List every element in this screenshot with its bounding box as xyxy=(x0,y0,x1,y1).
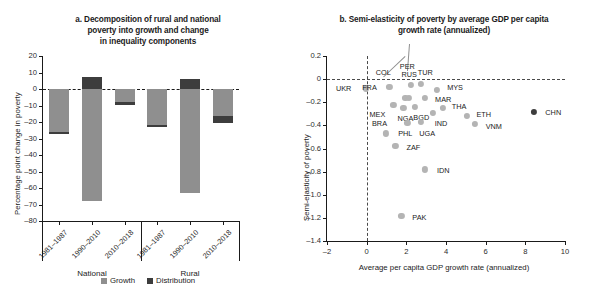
panel-b-y-tick-label: –0.8 xyxy=(297,167,321,176)
panel-a-group-separator xyxy=(141,221,142,261)
panel-a-title-line-2: poverty into growth and change xyxy=(0,25,296,36)
panel-a-category-label: 2010–2018 xyxy=(102,228,135,261)
panel-a-y-tickmark xyxy=(39,122,43,123)
panel-b-point-idn[interactable] xyxy=(422,166,428,172)
panel-b-x-tick-label: 4 xyxy=(434,247,458,256)
panel-b-point-bra[interactable] xyxy=(382,130,388,136)
panel-b-title-line-1: b. Semi-elasticity of poverty by average… xyxy=(296,14,592,25)
panel-b-y-tickmark xyxy=(323,125,327,126)
panel-b-point-vnm[interactable] xyxy=(472,121,478,127)
panel-a-bar-segment-distribution xyxy=(147,125,167,127)
panel-b-point-eth[interactable] xyxy=(464,113,470,119)
panel-a-y-tickmark xyxy=(39,73,43,74)
panel-b-point-label-vnm: VNM xyxy=(486,122,502,131)
panel-b-y-tickmark xyxy=(323,218,327,219)
panel-b-y-tick-label: –0.2 xyxy=(297,97,321,106)
panel-b-point-mys[interactable] xyxy=(434,86,440,92)
panel-a-x-tickmark xyxy=(92,221,93,225)
panel-b-point-label-chn: CHN xyxy=(545,107,561,116)
panel-b-y-tickmark xyxy=(323,79,327,80)
panel-a-y-tick-label: –50 xyxy=(11,167,37,176)
panel-b-point-rus[interactable] xyxy=(408,82,414,88)
panel-a-y-tick-label: –80 xyxy=(11,216,37,225)
panel-a-bar-segment-distribution xyxy=(82,77,102,89)
panel-b-x-tick-label: –2 xyxy=(315,247,339,256)
panel-a-category-label: 1981–1987 xyxy=(134,228,167,261)
panel-b-point-chn[interactable] xyxy=(531,108,537,114)
panel-a-title: a. Decomposition of rural and national p… xyxy=(0,14,296,47)
panel-a-bar-segment-distribution xyxy=(180,79,200,89)
panel-a-legend-item-growth[interactable]: Growth xyxy=(101,276,135,285)
panel-b-y-tickmark xyxy=(323,149,327,150)
panel-a-category-label: 1990–2010 xyxy=(167,228,200,261)
panel-b-point-per[interactable] xyxy=(406,95,412,101)
panel-a-bar-segment-growth xyxy=(49,89,69,132)
panel-a-plot-area xyxy=(43,56,239,221)
panel-a-category-label: 2010–2018 xyxy=(200,228,233,261)
panel-b-point-label-mex: MEX xyxy=(370,109,386,118)
panel-b-x-tick-label: 10 xyxy=(553,247,577,256)
panel-a-y-tickmark xyxy=(39,205,43,206)
panel-a-bar-segment-distribution xyxy=(49,132,69,134)
panel-a-legend-swatch-growth xyxy=(101,278,107,284)
panel-a-y-tickmark xyxy=(39,139,43,140)
panel-b-point-tha[interactable] xyxy=(440,105,446,111)
panel-b-x-tickmark xyxy=(406,241,407,245)
panel-b-point-bgd[interactable] xyxy=(412,104,418,110)
panel-a-bar-segment-growth xyxy=(147,89,167,125)
panel-a-bar-3 xyxy=(115,56,135,221)
panel-a-y-tickmark xyxy=(39,106,43,107)
panel-a-legend-label: Growth xyxy=(110,276,135,285)
panel-b-x-tickmark xyxy=(525,241,526,245)
panel-b-x-axis-title: Average per capita GDP growth rate (annu… xyxy=(296,263,592,272)
panel-b-point-label-ind: IND xyxy=(435,118,448,127)
panel-b-point-ind[interactable] xyxy=(430,110,436,116)
panel-b-point-label-ukr: UKR xyxy=(336,84,351,93)
panel-b-point-mar[interactable] xyxy=(422,95,428,101)
panel-a-x-tickmark xyxy=(223,221,224,225)
panel-b-y-tickmark xyxy=(323,172,327,173)
panel-b-y-tick-label: –0.4 xyxy=(297,120,321,129)
panel-a-x-tickmark xyxy=(59,221,60,225)
panel-b-y-tickmark xyxy=(323,56,327,57)
panel-b-x-tick-label: 8 xyxy=(513,247,537,256)
panel-a-bar-segment-growth xyxy=(82,89,102,201)
panel-b-point-uga[interactable] xyxy=(418,119,424,125)
panel-a-bar-segment-growth xyxy=(115,89,135,102)
panel-b-title: b. Semi-elasticity of poverty by average… xyxy=(296,14,592,36)
panel-a-zero-reference-line xyxy=(43,89,239,90)
panel-b-point-mex[interactable] xyxy=(390,101,396,107)
panel-b-point-phl[interactable] xyxy=(404,120,410,126)
panel-a-x-tickmark xyxy=(190,221,191,225)
panel-a-x-tickmark xyxy=(157,221,158,225)
panel-a-axis-right-edge xyxy=(239,221,240,261)
panel-b-x-tickmark xyxy=(327,241,328,245)
panel-b-point-label-tha: THA xyxy=(452,102,467,111)
panel-b-point-fra[interactable] xyxy=(386,84,392,90)
panel-b-point-tur[interactable] xyxy=(418,81,424,87)
panel-a-legend-item-distribution[interactable]: Distribution xyxy=(147,276,195,285)
panel-a-y-tick-label: –70 xyxy=(11,200,37,209)
panel-b-y-tickmark xyxy=(323,195,327,196)
panel-a-legend-swatch-distribution xyxy=(147,278,153,284)
panel-b-point-label-zaf: ZAF xyxy=(407,143,421,152)
panel-b-point-label-phl: PHL xyxy=(398,129,412,138)
panel-b-point-pak[interactable] xyxy=(398,212,404,218)
panel-a-y-tick-label: 10 xyxy=(11,68,37,77)
panel-a-legend-label: Distribution xyxy=(156,276,195,285)
panel-b-point-zaf[interactable] xyxy=(392,143,398,149)
panel-b-x-tickmark xyxy=(446,241,447,245)
panel-a-y-tickmark xyxy=(39,155,43,156)
panel-b-x-tick-label: 2 xyxy=(394,247,418,256)
panel-b-y-tick-label: –1.0 xyxy=(297,190,321,199)
panel-b-y-tick-label: 0.2 xyxy=(297,51,321,60)
panel-a-y-tickmark xyxy=(39,188,43,189)
panel-b-point-label-mar: MAR xyxy=(435,94,451,103)
panel-b-x-tick-label: 0 xyxy=(355,247,379,256)
panel-b-point-label-eth: ETH xyxy=(477,110,492,119)
panel-b-point-nga[interactable] xyxy=(400,105,406,111)
panel-b-point-label-rus: RUS xyxy=(402,69,417,78)
panel-a-y-tick-label: –40 xyxy=(11,150,37,159)
panel-b-plot-area: UKRFRACOLPERRUSTURMYSMARMEXNGABGDINDTHAE… xyxy=(327,56,565,241)
panel-a-title-line-1: a. Decomposition of rural and national xyxy=(0,14,296,25)
